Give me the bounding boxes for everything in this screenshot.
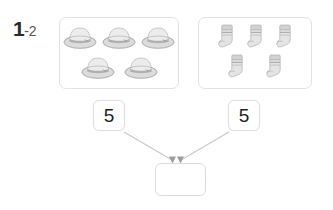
hat-icon — [63, 25, 97, 54]
socks-row-top — [199, 23, 311, 55]
sock-icon — [226, 53, 246, 85]
sock-icon — [216, 23, 236, 55]
number-box-left[interactable]: 5 — [93, 100, 125, 131]
sock-icon — [274, 23, 294, 55]
hats-row-top — [60, 25, 178, 54]
number-box-right[interactable]: 5 — [228, 100, 260, 131]
exercise-number-label: 1-2 — [13, 18, 37, 39]
sock-icon — [245, 23, 265, 55]
number-box-left-value: 5 — [104, 105, 115, 127]
socks-group-box — [198, 17, 312, 89]
hat-icon — [81, 55, 115, 84]
hat-icon — [124, 55, 158, 84]
hat-icon — [102, 25, 136, 54]
hats-group-box — [59, 17, 179, 89]
socks-row-bottom — [199, 53, 311, 85]
hats-row-bottom — [60, 55, 178, 84]
hat-icon — [141, 25, 175, 54]
number-box-right-value: 5 — [239, 105, 250, 127]
arrow-right-to-answer — [177, 132, 229, 164]
worksheet-canvas: 1-2 — [0, 0, 333, 210]
answer-box[interactable] — [155, 163, 206, 196]
arrow-left-to-answer — [124, 132, 176, 164]
sock-icon — [264, 53, 284, 85]
exercise-number: 1 — [13, 17, 24, 40]
exercise-sub-number: -2 — [24, 23, 36, 39]
